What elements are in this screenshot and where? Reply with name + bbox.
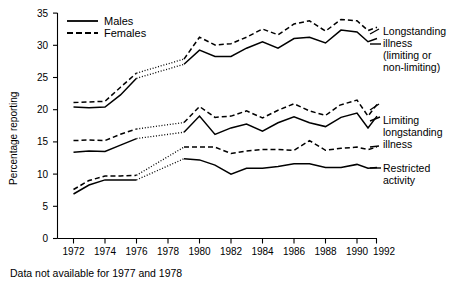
series-line-restricted-females	[74, 175, 137, 189]
annotation-limiting-line1: Limiting	[383, 114, 419, 126]
series-line-longstanding-males	[74, 78, 137, 108]
y-tick-labels: 0 5 10 15 20 25 30 35	[37, 8, 49, 244]
leader-line-restricted-females	[370, 146, 379, 147]
series-line-limiting-females-2	[184, 100, 377, 122]
series-line-restricted-males-2	[184, 159, 377, 174]
y-tick-label: 35	[37, 8, 49, 19]
annotation-limiting-line2: longstanding	[383, 126, 443, 138]
x-tick-labels: 1972 1974 1976 1978 1980 1982 1984 1986 …	[62, 246, 395, 257]
y-tick-label: 25	[37, 72, 49, 83]
y-tick-label: 5	[42, 201, 48, 212]
x-tick-label: 1990	[346, 246, 369, 257]
x-tick-label: 1992	[373, 246, 396, 257]
chart-figure: 0 5 10 15 20 25 30 35 1972 1974 1976 197…	[0, 0, 455, 288]
y-axis-title: Percentage reporting	[8, 92, 19, 185]
legend-label-females: Females	[104, 27, 147, 39]
series-line-limiting-males-2	[184, 113, 377, 134]
x-tick-label: 1974	[94, 246, 117, 257]
annotation-limiting-line3: illness	[383, 138, 412, 150]
series-line-longstanding-males-2	[184, 30, 377, 64]
series-line-limiting-females	[74, 129, 137, 141]
y-tick-label: 15	[37, 136, 49, 147]
chart-svg: 0 5 10 15 20 25 30 35 1972 1974 1976 197…	[0, 0, 455, 288]
series-gap-longstanding-males	[137, 64, 185, 78]
annotation-restricted-line2: activity	[383, 174, 416, 186]
series-line-restricted-males	[74, 180, 137, 194]
series-gap-limiting-males	[137, 132, 185, 138]
series-restricted-activity	[74, 141, 378, 194]
y-tick-label: 20	[37, 104, 49, 115]
x-tick-label: 1972	[62, 246, 85, 257]
y-tick-label: 10	[37, 169, 49, 180]
chart-legend: Males Females	[67, 15, 147, 39]
annotation-longstanding-line3: (limiting or	[383, 49, 432, 61]
series-gap-restricted-females	[137, 147, 185, 175]
chart-footnote: Data not available for 1977 and 1978	[10, 267, 182, 279]
x-tick-label: 1980	[188, 246, 211, 257]
x-tick-label: 1984	[251, 246, 274, 257]
series-gap-limiting-females	[137, 123, 185, 130]
y-tick-label: 30	[37, 40, 49, 51]
x-axis	[58, 239, 378, 244]
x-tick-label: 1976	[125, 246, 148, 257]
series-line-restricted-females-2	[184, 141, 377, 154]
y-tick-label: 0	[42, 233, 48, 244]
series-limiting-longstanding-illness	[74, 100, 378, 152]
annotation-longstanding-line1: Longstanding	[383, 25, 446, 37]
annotation-longstanding-line4: non-limiting)	[383, 61, 440, 73]
x-tick-label: 1982	[220, 246, 243, 257]
series-gap-restricted-males	[137, 159, 185, 180]
x-tick-label: 1978	[157, 246, 180, 257]
x-tick-label: 1986	[283, 246, 306, 257]
annotation-limiting-longstanding-illness: Limiting longstanding illness	[370, 104, 443, 150]
y-axis	[53, 13, 58, 239]
annotation-restricted-activity: Restricted activity	[370, 146, 430, 186]
series-line-longstanding-females-2	[184, 20, 377, 60]
annotation-longstanding-illness: Longstanding illness (limiting or non-li…	[370, 25, 446, 73]
annotation-restricted-line1: Restricted	[383, 162, 430, 174]
annotation-longstanding-line2: illness	[383, 37, 412, 49]
legend-label-males: Males	[104, 15, 134, 27]
x-tick-label: 1988	[314, 246, 337, 257]
leader-line-limiting-females	[370, 104, 379, 110]
